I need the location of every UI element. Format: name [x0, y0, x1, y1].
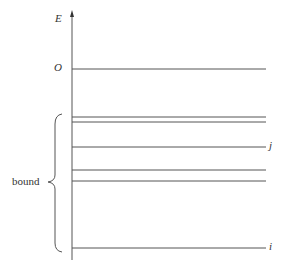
- energy-level-diagram: [0, 0, 286, 269]
- bound-brace: [48, 114, 62, 252]
- axis-label-e: E: [55, 12, 62, 24]
- axis-arrow-icon: [70, 10, 74, 17]
- bound-label: bound: [12, 175, 40, 187]
- level-j-label: j: [269, 139, 272, 151]
- zero-label: O: [54, 61, 62, 73]
- level-i-label: i: [269, 240, 272, 252]
